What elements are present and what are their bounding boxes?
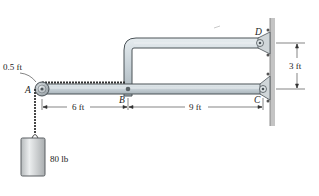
stray-mark bbox=[214, 26, 220, 28]
dimension-bc-label: 9 ft bbox=[189, 102, 202, 112]
member-abc bbox=[38, 84, 264, 94]
dimension-ab-label: 6 ft bbox=[72, 102, 85, 112]
weight-label: 80 lb bbox=[50, 154, 69, 164]
wall bbox=[270, 18, 275, 126]
radius-leader-line bbox=[20, 73, 36, 82]
frame-diagram: 0.5 ft A B C D 80 lb 6 ft 9 ft 3 ft bbox=[0, 0, 319, 196]
point-label-a: A bbox=[24, 85, 31, 95]
weight-block bbox=[21, 135, 45, 177]
pulley-radius-label: 0.5 ft bbox=[3, 62, 22, 72]
dimension-ab bbox=[42, 98, 128, 110]
point-label-c: C bbox=[254, 95, 261, 105]
point-label-b: B bbox=[119, 95, 125, 105]
point-label-d: D bbox=[254, 27, 262, 37]
pin-b bbox=[126, 87, 131, 92]
dimension-cd-label: 3 ft bbox=[289, 61, 302, 71]
pulley-a bbox=[35, 82, 49, 96]
bracket-c bbox=[260, 73, 271, 103]
